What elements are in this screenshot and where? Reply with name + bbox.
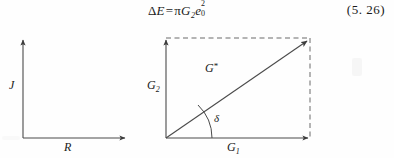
left-axes-group [23,40,125,138]
equation-g-variable: G [181,3,191,18]
equation-lhs-variable: E [157,3,165,18]
scan-artifact-left [2,136,20,140]
label-delta: δ [214,112,219,124]
label-g1-subscript: 1 [236,147,240,156]
right-vector-group [166,38,310,138]
equation-equals: = [165,3,175,18]
equation-e-subscript: 0 [201,9,205,18]
figures-canvas [0,24,394,158]
scan-artifact-right [352,58,362,76]
equation-e-exponents: 02 [201,2,207,15]
equation-e-superscript: 2 [201,0,205,8]
label-g2-subscript: 2 [156,85,160,94]
label-g-star: G* [205,61,218,76]
equation-number: (5. 26) [347,2,385,18]
figure-page: ΔE=πG2e02 (5. 26) [0,0,394,158]
label-g-star-base: G [205,61,214,75]
delta-angle-arc [198,105,212,138]
resultant-vector-line [166,41,307,138]
equation-display: ΔE=πG2e02 [148,2,207,20]
equation-delta: Δ [148,3,157,18]
label-g1: G1 [227,140,240,156]
label-g1-base: G [227,140,236,154]
label-g2: G2 [147,78,160,94]
label-g-star-superscript: * [214,61,219,71]
label-j: J [9,78,14,93]
label-g2-base: G [147,78,156,92]
label-r: R [64,140,71,155]
